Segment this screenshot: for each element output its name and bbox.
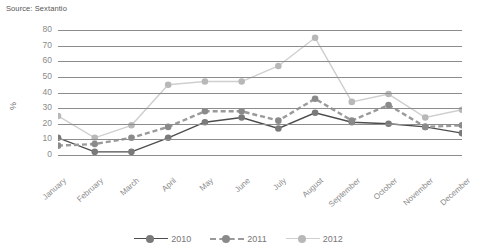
legend-marker-2012 [298, 235, 306, 243]
data-point-2012-september [349, 99, 356, 106]
data-point-2012-may [202, 78, 209, 85]
y-tick-label: 40 [26, 88, 52, 97]
gridline-80 [58, 30, 462, 31]
y-axis-title: % [8, 102, 18, 110]
gridline-0 [58, 155, 462, 156]
legend-label-2012: 2012 [323, 234, 343, 244]
data-point-2012-june [238, 78, 245, 85]
y-tick-label: 70 [26, 41, 52, 50]
y-tick-label: 60 [26, 56, 52, 65]
data-point-2012-august [312, 35, 319, 42]
x-axis-tick-labels: JanuaryFebruaryMarchAprilMayJuneJulyAugu… [0, 176, 477, 224]
gridline-30 [58, 108, 462, 109]
legend-swatch-2011 [210, 233, 244, 244]
plot-area [58, 30, 462, 155]
data-point-2010-july [275, 125, 282, 132]
legend-item-2012[interactable]: 2012 [286, 233, 343, 244]
y-tick-label: 20 [26, 119, 52, 128]
gridline-70 [58, 46, 462, 47]
data-point-2012-november [422, 114, 429, 121]
gridline-10 [58, 139, 462, 140]
chart-legend: 201020112012 [0, 233, 477, 244]
source-note: Source: Sextantio [6, 4, 67, 13]
legend-label-2011: 2011 [247, 234, 266, 244]
legend-marker-2011 [222, 235, 230, 243]
series-line-2010 [58, 113, 462, 152]
data-point-2011-february [91, 141, 98, 148]
legend-item-2010[interactable]: 2010 [134, 233, 191, 244]
legend-marker-2010 [146, 235, 154, 243]
y-tick-label: 50 [26, 72, 52, 81]
legend-label-2010: 2010 [171, 234, 191, 244]
data-point-2012-july [275, 63, 282, 70]
legend-swatch-2012 [286, 233, 320, 244]
gridline-50 [58, 77, 462, 78]
y-tick-label: 80 [26, 25, 52, 34]
data-point-2012-april [165, 81, 172, 88]
data-point-2010-december [459, 130, 462, 137]
legend-item-2011[interactable]: 2011 [210, 233, 266, 244]
line-chart: % 80706050403020100 JanuaryFebruaryMarch… [0, 18, 477, 218]
gridline-20 [58, 124, 462, 125]
legend-swatch-2010 [134, 233, 168, 244]
series-2011 [58, 95, 462, 148]
y-tick-label: 10 [26, 134, 52, 143]
gridline-40 [58, 93, 462, 94]
gridline-60 [58, 61, 462, 62]
data-point-2011-august [312, 95, 319, 102]
y-tick-label: 0 [26, 150, 52, 159]
y-tick-label: 30 [26, 103, 52, 112]
data-point-2011-january [58, 142, 61, 149]
data-point-2010-june [238, 114, 245, 121]
data-point-2010-august [312, 110, 319, 117]
